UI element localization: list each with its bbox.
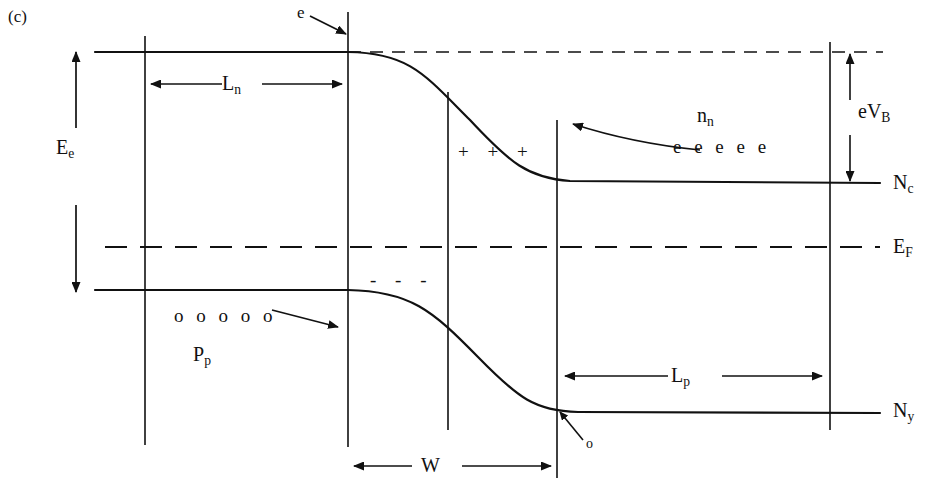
band-diagram-figure (0, 0, 933, 481)
valence-band-label: Ny (893, 400, 914, 423)
conduction-band-curve (95, 52, 880, 183)
conduction-band-label: Nc (893, 172, 914, 195)
barrier-height-label: eVB (858, 101, 890, 124)
W-label: W (421, 455, 440, 475)
Lp-label: Lp (671, 365, 690, 388)
positive-charge-label: + + + (458, 142, 535, 161)
Ln-label: Ln (222, 73, 241, 96)
panel-label: (c) (8, 8, 27, 25)
hole-density-label: Pp (193, 344, 211, 367)
fermi-level-label: EF (893, 236, 913, 259)
hole-pointer-arrow (560, 412, 583, 440)
electron-density-label: nn (697, 105, 714, 128)
hole-flow-arrow (272, 310, 338, 327)
electron-pointer-label: e (297, 4, 305, 21)
holes-row-label: o o o o o (174, 306, 277, 325)
vertical-boundary-lines (145, 12, 830, 478)
hole-pointer-label: o (586, 437, 593, 451)
electron-pointer-arrow (310, 16, 346, 34)
electrons-row-label: e e e e e (673, 137, 770, 156)
negative-charge-label: - - - (370, 270, 433, 289)
energy-axis-label: Ee (56, 137, 74, 160)
